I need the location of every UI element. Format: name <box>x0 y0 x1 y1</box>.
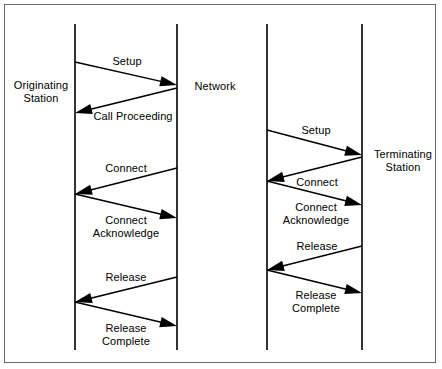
arrow-head <box>75 293 93 303</box>
label-msg-release-right: Release <box>277 240 357 253</box>
label-msg-setup-right: Setup <box>276 124 356 137</box>
label-msg-release-complete-right: Release Complete <box>274 289 358 314</box>
sequence-diagram-graphics <box>0 0 442 369</box>
label-msg-connect-left: Connect <box>85 162 167 175</box>
arrow-head <box>267 261 285 271</box>
arrow-shaft <box>75 302 164 323</box>
label-msg-connect-right: Connect <box>277 176 357 189</box>
arrow-head <box>344 146 362 156</box>
label-msg-release-left: Release <box>85 271 167 284</box>
label-msg-connect-acknowledge-right: Connect Acknowledge <box>272 201 360 226</box>
arrow-shaft <box>88 88 177 110</box>
label-network-left: Network <box>185 80 245 93</box>
label-terminating-station: Terminating Station <box>368 148 438 173</box>
arrow-shaft <box>75 194 164 215</box>
arrow-shaft <box>267 270 349 290</box>
arrow-head <box>159 76 177 86</box>
label-msg-setup-left: Setup <box>86 55 168 68</box>
label-originating-station: Originating Station <box>8 79 74 104</box>
figure-canvas: SetupCall ProceedingConnectConnect Ackno… <box>0 0 442 369</box>
label-msg-call-proceeding: Call Proceeding <box>87 110 179 123</box>
arrow-shaft <box>280 157 362 178</box>
label-msg-connect-acknowledge-left: Connect Acknowledge <box>82 214 170 239</box>
label-msg-release-complete-left: Release Complete <box>84 322 168 347</box>
arrow-head <box>75 185 93 195</box>
